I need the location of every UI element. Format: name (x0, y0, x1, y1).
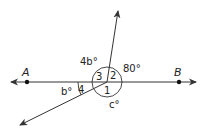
point-b-dot (177, 80, 181, 84)
point-a-label: A (21, 66, 30, 79)
angle-number-3: 3 (96, 71, 102, 82)
angle-measure-b: b° (61, 86, 72, 97)
angle-number-1: 1 (104, 85, 110, 96)
point-a-dot (25, 80, 29, 84)
angle-diagram: A B 3 2 1 4 4b° 80° b° c° (0, 0, 203, 134)
angle-number-4: 4 (78, 84, 84, 95)
angle-measure-c: c° (109, 99, 120, 110)
angle-measure-80: 80° (123, 63, 141, 74)
point-b-label: B (174, 66, 182, 79)
angle-measure-4b: 4b° (80, 56, 98, 67)
angle-number-2: 2 (110, 70, 116, 81)
